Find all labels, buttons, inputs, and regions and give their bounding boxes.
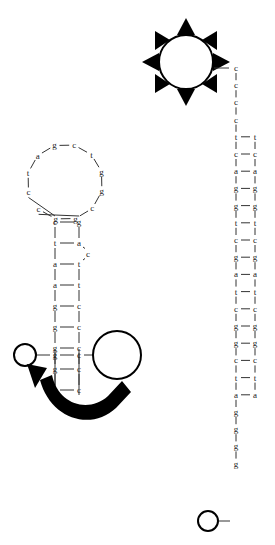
loop-backbone-bond <box>80 211 88 216</box>
duplex-pair-base-left: g <box>234 321 239 331</box>
stem-base-right: a <box>77 238 81 248</box>
duplex-top-base: c <box>234 80 238 90</box>
stem-base-left: a <box>53 280 57 290</box>
duplex-pair-base-left: g <box>234 338 239 348</box>
duplex-pair-base-right: t <box>254 373 257 383</box>
duplex-top-base: c <box>234 63 238 73</box>
duplex-bottom-base: g <box>234 441 239 451</box>
loop-backbone-bond <box>31 160 36 168</box>
duplex-pair-base-right: c <box>253 235 257 245</box>
stem-bulge-base: c <box>86 249 90 259</box>
stem-base-left: c <box>53 217 57 227</box>
loop-base: g <box>100 186 105 196</box>
stem-base-right: g <box>77 217 82 227</box>
loop-base: c <box>26 187 30 197</box>
duplex-pair-base-left: t <box>235 373 238 383</box>
stem-base-right: c <box>77 322 81 332</box>
duplex-pair-base-left: c <box>234 304 238 314</box>
diagram-canvas: ccccttccaaggggttccggaattccggggccttaagggg… <box>0 0 275 545</box>
duplex-pair-base-right: c <box>253 355 257 365</box>
small-circle-marker-left[interactable] <box>14 344 36 366</box>
duplex-bottom-base: g <box>234 407 239 417</box>
duplex-pair-base-right: a <box>253 269 257 279</box>
stem-base-left: g <box>53 322 58 332</box>
duplex-pair-base-right: g <box>253 338 258 348</box>
duplex-pair-base-left: c <box>234 149 238 159</box>
loop-base: a <box>36 151 40 161</box>
sun-burst-marker[interactable] <box>142 18 230 106</box>
duplex-pair-base-left: g <box>234 201 239 211</box>
duplex-pair-base-right: g <box>253 183 258 193</box>
loop-base: c <box>72 140 76 150</box>
stem-base-left: a <box>53 259 57 269</box>
arrow-curve-body <box>40 375 131 420</box>
small-circle-marker-bottom[interactable] <box>198 511 218 531</box>
sun-ray-s <box>177 89 195 106</box>
loop-backbone-bond <box>95 196 100 204</box>
duplex-top-base: c <box>234 115 238 125</box>
loop-base: t <box>27 168 30 178</box>
bulge-bond-in <box>83 247 85 249</box>
duplex-pair-base-right: a <box>253 166 257 176</box>
hairpin-terminal-base-right: c <box>77 350 81 360</box>
sun-body-circle <box>159 35 213 89</box>
duplex-pair-base-left: t <box>235 218 238 228</box>
duplex-pair-base-right: g <box>253 252 258 262</box>
loop-to-stem-bond-left <box>28 197 55 216</box>
duplex-pair-base-right: c <box>253 149 257 159</box>
duplex-top-base: c <box>234 97 238 107</box>
duplex-pair-base-right: g <box>253 321 258 331</box>
structure-svg: ccccttccaaggggttccggaattccggggccttaagggg… <box>0 0 275 545</box>
duplex-pair-base-right: c <box>253 304 257 314</box>
sun-ray-w <box>142 53 159 71</box>
stem-base-right: t <box>78 259 81 269</box>
loop-backbone-bond <box>42 148 50 153</box>
loop-backbone-bond <box>79 148 87 153</box>
stem-base-left: t <box>54 238 57 248</box>
hairpin-terminal-base-left: g <box>53 350 58 360</box>
loop-base: g <box>52 140 57 150</box>
duplex-pair-base-left: g <box>234 183 239 193</box>
duplex-pair-base-left: t <box>235 287 238 297</box>
loop-backbone-bond <box>94 159 99 167</box>
stem-base-right: t <box>78 280 81 290</box>
duplex-pair-base-left: c <box>234 355 238 365</box>
loop-base: t <box>90 150 93 160</box>
duplex-pair-base-right: t <box>254 287 257 297</box>
duplex-pair-base-left: a <box>234 269 238 279</box>
bulge-bond-out <box>83 259 85 261</box>
right-duplex-ladder: ccccttccaaggggttccggaattccggggccttaagggg <box>234 63 258 469</box>
stem-base-left: g <box>53 301 58 311</box>
duplex-pair-base-left: c <box>234 235 238 245</box>
loop-base: c <box>90 203 94 213</box>
duplex-pair-base-left: t <box>235 132 238 142</box>
duplex-bottom-base: g <box>234 424 239 434</box>
stem-base-right: c <box>77 301 81 311</box>
loop-base: g <box>99 167 104 177</box>
duplex-pair-base-left: g <box>234 252 239 262</box>
duplex-pair-base-right: t <box>254 132 257 142</box>
duplex-bottom-base: g <box>234 459 239 469</box>
duplex-pair-base-right: g <box>253 201 258 211</box>
duplex-pair-base-left: a <box>234 166 238 176</box>
sun-ray-n <box>177 18 195 35</box>
duplex-pair-base-left: a <box>234 390 238 400</box>
duplex-pair-base-right: a <box>253 390 257 400</box>
duplex-pair-base-right: t <box>254 218 257 228</box>
large-circle-marker[interactable] <box>93 331 141 379</box>
